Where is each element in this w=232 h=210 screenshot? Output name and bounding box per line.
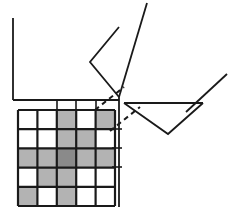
grid-cell (57, 110, 76, 129)
grid-cell (96, 187, 115, 206)
grid-cell (57, 187, 76, 206)
grid-cell (37, 187, 56, 206)
grid-cell (96, 110, 115, 129)
grid-cell (96, 148, 115, 167)
geometric-figure-svg (0, 0, 232, 210)
grid-cell (18, 129, 37, 148)
grid-cell (37, 110, 56, 129)
grid-cell (76, 187, 95, 206)
grid-cell (76, 168, 95, 187)
grid-cell (76, 110, 95, 129)
grid-cell (76, 129, 95, 148)
grid-cell (96, 168, 115, 187)
grid-cell (96, 129, 115, 148)
grid-cell (18, 148, 37, 167)
grid-cell (37, 129, 56, 148)
grid-cell (18, 168, 37, 187)
figure-container: Geometric diagram with shaded 5x5 grid, … (0, 0, 232, 210)
grid-cell (37, 148, 56, 167)
grid-cell (57, 129, 76, 148)
grid-cell (18, 187, 37, 206)
grid-cell (18, 110, 37, 129)
grid-cells-layer (18, 110, 115, 206)
grid-cell (76, 148, 95, 167)
grid-cell (57, 148, 76, 167)
grid-cell (37, 168, 56, 187)
grid-cell (57, 168, 76, 187)
